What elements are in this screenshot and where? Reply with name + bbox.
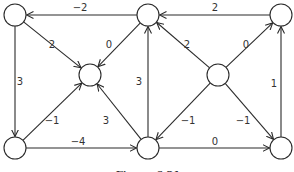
graph-node-C [270, 4, 292, 26]
edge-weight-label: −1 [45, 115, 60, 126]
edge-weight-label: 2 [184, 39, 190, 50]
graph-node-E [207, 64, 229, 86]
edge-E-C [226, 23, 273, 67]
edge-weight-label: 0 [243, 39, 249, 50]
edge-weight-label: 3 [103, 115, 109, 126]
edge-weight-label: 3 [17, 76, 23, 87]
edge-weight-label: −1 [181, 115, 196, 126]
graph-node-B [137, 4, 159, 26]
graph-node-D [79, 64, 101, 86]
graph-node-G [137, 137, 159, 159]
graph-node-H [270, 137, 292, 159]
edge-F-D [23, 83, 82, 140]
edge-weight-label: 1 [271, 78, 277, 89]
edge-weight-label: 2 [212, 2, 218, 13]
edges-layer [15, 15, 281, 148]
edge-weight-label: 3 [136, 76, 142, 87]
edge-G-D [97, 84, 141, 139]
edge-E-H [225, 83, 273, 139]
edge-weight-label: −2 [73, 2, 88, 13]
edge-E-G [156, 83, 210, 140]
edge-weight-label: 0 [106, 39, 112, 50]
edge-weight-label: −4 [71, 136, 86, 147]
graph-diagram: −222033201−13−4−1−10 Figure 6.21 [0, 0, 294, 172]
edge-weight-label: 2 [49, 39, 55, 50]
edge-weight-label: −1 [236, 115, 251, 126]
edge-B-D [98, 23, 140, 67]
graph-node-A [4, 4, 26, 26]
graph-node-F [4, 137, 26, 159]
figure-caption: Figure 6.21 [116, 169, 181, 172]
edge-weight-label: 0 [212, 136, 218, 147]
